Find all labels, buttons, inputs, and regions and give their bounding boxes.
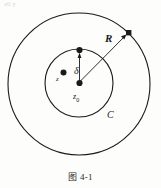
- inner-circle-top-dot: [76, 47, 82, 53]
- figure-container: z0 y R C δ z z0 图 4-1: [0, 0, 161, 188]
- label-center-z0: z0: [73, 93, 79, 103]
- figure-caption: 图 4-1: [0, 170, 161, 183]
- outer-circle-dot: [126, 30, 131, 35]
- figure-drawing: [0, 0, 161, 188]
- radius-line-R: [80, 37, 125, 83]
- radius-arrowhead-delta: [78, 53, 82, 59]
- label-radius-R: R: [105, 33, 112, 44]
- label-point-z: z: [56, 76, 59, 83]
- label-center-z0-subscript: 0: [76, 97, 79, 103]
- label-contour-C: C: [107, 110, 114, 120]
- label-radius-delta: δ: [74, 66, 79, 76]
- interior-dot-z: [61, 70, 67, 76]
- center-dot-z0: [76, 80, 82, 86]
